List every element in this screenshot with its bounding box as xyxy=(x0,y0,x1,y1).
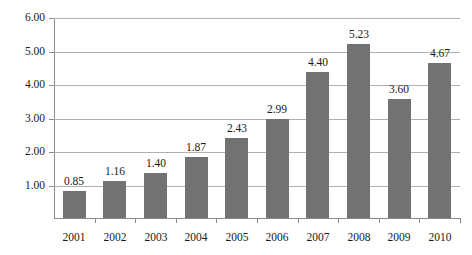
x-axis-tick-mark xyxy=(379,218,380,223)
bar xyxy=(306,72,329,218)
y-axis-tick-label: 3.00 xyxy=(0,113,45,125)
x-axis-tick-label: 2007 xyxy=(296,231,340,243)
bar-value-label: 0.85 xyxy=(52,176,96,188)
y-axis-tick-label: 6.00 xyxy=(0,12,45,24)
x-axis-tick-mark xyxy=(95,218,96,223)
bar-value-label: 1.87 xyxy=(174,142,218,154)
bar-value-label: 2.99 xyxy=(255,104,299,116)
x-axis-tick-mark xyxy=(216,218,217,223)
x-axis-tick-label: 2003 xyxy=(134,231,178,243)
bar xyxy=(144,173,167,218)
bar-value-label: 1.40 xyxy=(134,158,178,170)
x-axis-tick-mark xyxy=(135,218,136,223)
bar xyxy=(388,99,411,218)
bar xyxy=(103,181,126,218)
x-axis-tick-mark xyxy=(298,218,299,223)
bar-value-label: 4.40 xyxy=(296,57,340,69)
x-axis-tick-label: 2004 xyxy=(174,231,218,243)
y-axis-tick-label: 4.00 xyxy=(0,79,45,91)
bar xyxy=(63,191,86,218)
bar-value-label: 2.43 xyxy=(215,123,259,135)
x-axis-tick-mark xyxy=(257,218,258,223)
bar xyxy=(266,119,289,218)
x-axis-tick-label: 2008 xyxy=(337,231,381,243)
bar-value-label: 3.60 xyxy=(377,84,421,96)
x-axis-tick-mark xyxy=(176,218,177,223)
x-axis-tick-label: 2005 xyxy=(215,231,259,243)
y-axis-tick-label: 2.00 xyxy=(0,146,45,158)
bar-chart: 6.005.004.003.002.001.00 200120022003200… xyxy=(0,0,472,255)
x-axis-tick-label: 2002 xyxy=(93,231,137,243)
plot-area xyxy=(54,18,460,218)
bar-value-label: 1.16 xyxy=(93,166,137,178)
bar-value-label: 4.67 xyxy=(418,48,462,60)
bar-value-label: 5.23 xyxy=(337,29,381,41)
x-axis-tick-label: 2009 xyxy=(377,231,421,243)
x-axis-tick-label: 2001 xyxy=(52,231,96,243)
y-axis-tick-label: 1.00 xyxy=(0,180,45,192)
x-axis-tick-mark xyxy=(419,218,420,223)
bar xyxy=(225,138,248,218)
bar xyxy=(185,157,208,218)
bar xyxy=(347,44,370,218)
x-axis-tick-mark xyxy=(338,218,339,223)
x-axis-tick-mark xyxy=(460,218,461,223)
x-axis-tick-label: 2006 xyxy=(255,231,299,243)
y-axis-tick-label: 5.00 xyxy=(0,46,45,58)
x-axis-tick-label: 2010 xyxy=(418,231,462,243)
bar xyxy=(428,63,451,218)
